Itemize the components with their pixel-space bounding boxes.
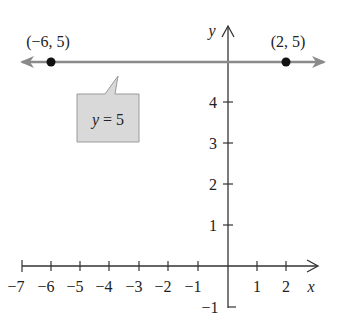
y-tick-label: −1 bbox=[201, 299, 218, 316]
x-axis-label: x bbox=[306, 278, 314, 295]
point-neg6-5 bbox=[47, 58, 56, 67]
point-2-5 bbox=[282, 58, 291, 67]
x-tick-label: −1 bbox=[184, 278, 201, 295]
x-tick-label: −7 bbox=[7, 278, 24, 295]
point-label-right: (2, 5) bbox=[271, 33, 306, 51]
x-tick-label: 2 bbox=[282, 278, 290, 295]
y-tick-label: 1 bbox=[209, 217, 217, 234]
y-tick-label: 2 bbox=[209, 176, 217, 193]
x-tick-label: 1 bbox=[253, 278, 261, 295]
y-axis: 4 3 2 1 −1 y bbox=[201, 22, 236, 316]
y-tick-label: 4 bbox=[209, 94, 217, 111]
callout-text: y = 5 bbox=[90, 111, 124, 129]
y-tick-label: 3 bbox=[209, 135, 217, 152]
x-tick-label: −2 bbox=[154, 278, 171, 295]
x-tick-label: −3 bbox=[125, 278, 142, 295]
x-tick-label: −5 bbox=[66, 278, 83, 295]
point-label-left: (−6, 5) bbox=[26, 33, 70, 51]
coordinate-plane: −7 −6 −5 −4 −3 −2 −1 1 2 x 4 3 2 1 −1 y bbox=[0, 0, 340, 332]
x-axis: −7 −6 −5 −4 −3 −2 −1 1 2 x bbox=[7, 260, 318, 295]
x-tick-label: −6 bbox=[37, 278, 54, 295]
line-y-equals-5 bbox=[20, 56, 326, 68]
y-axis-label: y bbox=[206, 22, 216, 40]
equation-callout: y = 5 bbox=[77, 76, 139, 142]
x-tick-label: −4 bbox=[95, 278, 112, 295]
